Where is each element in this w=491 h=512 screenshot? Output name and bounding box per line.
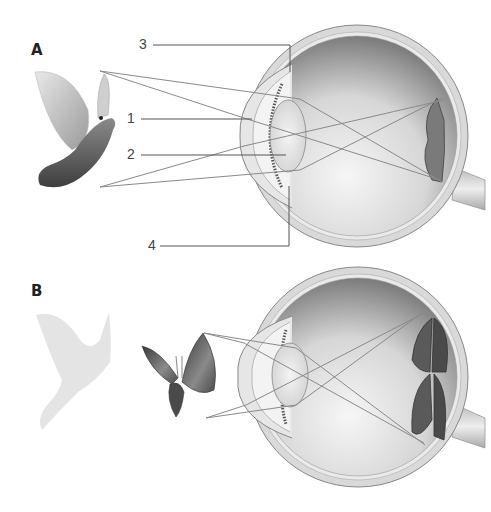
callout-1: 1	[127, 110, 135, 126]
panel-label-b: B	[31, 282, 42, 300]
callout-2: 2	[127, 146, 135, 162]
eye-diagram	[0, 0, 491, 512]
callout-4: 4	[148, 237, 156, 253]
callout-3: 3	[139, 36, 147, 52]
panel-label-a: A	[31, 41, 43, 59]
faded-pigeon-b	[36, 313, 111, 430]
pigeon-a	[35, 72, 115, 188]
butterfly-b	[142, 333, 216, 417]
eye-b	[238, 267, 485, 487]
